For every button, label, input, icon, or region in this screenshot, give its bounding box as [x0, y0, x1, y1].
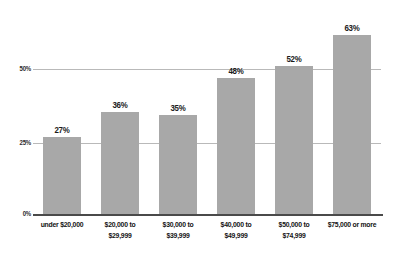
bar-2[interactable] [159, 115, 197, 214]
bar-4[interactable] [275, 66, 313, 214]
bar-1[interactable] [101, 112, 139, 214]
xlabel-5-line1: $75,000 or more [328, 220, 377, 229]
bar-value-2: 35% [152, 103, 203, 113]
bar-value-1: 36% [94, 100, 145, 110]
bar-value-3: 48% [210, 66, 261, 76]
xlabel-4-line2: $74,999 [260, 230, 328, 241]
xlabel-3-line1: $40,000 to [221, 220, 252, 229]
bar-5[interactable] [333, 35, 371, 214]
bar-value-0: 27% [36, 125, 87, 135]
xaxis-labels: under $20,000 $20,000 to $29,999 $30,000… [0, 219, 397, 262]
xlabel-5: $75,000 or more [318, 219, 386, 230]
xlabel-4-line1: $50,000 to [279, 220, 310, 229]
bar-chart: 50% 25% 0% 27% 36% 35% 48% 52% [0, 0, 397, 262]
xlabel-0-line1: under $20,000 [41, 220, 84, 229]
xlabel-2-line1: $30,000 to [163, 220, 194, 229]
xlabel-1-line1: $20,000 to [105, 220, 136, 229]
bar-0[interactable] [43, 137, 81, 214]
bar-3[interactable] [217, 78, 255, 214]
bar-value-5: 63% [326, 23, 377, 33]
bar-value-4: 52% [268, 54, 319, 64]
